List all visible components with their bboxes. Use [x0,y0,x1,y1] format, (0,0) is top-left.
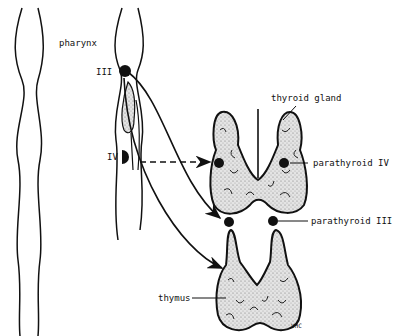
label-parathyroid-iii: parathyroid III [311,216,392,226]
label-thyroid-gland: thyroid gland [271,93,341,103]
arrow-to-thymus [124,78,222,268]
pouch-iv-dot [122,150,129,164]
artist-signature: VHC [291,322,302,329]
pouch-iii-dot [119,65,131,77]
parathyroid-iii-right [268,216,278,226]
pharynx-left-outline [15,8,43,336]
label-pharynx: pharynx [59,38,98,48]
embryology-diagram: pharynx III IV thyroid gland parathyroid… [0,0,397,336]
parathyroid-iv-right [279,158,289,168]
parathyroid-iii-left [224,217,234,227]
label-parathyroid-iv: parathyroid IV [313,158,389,168]
label-pouch-iv: IV [107,152,118,162]
pouch-tissue [122,82,135,133]
thymus [216,230,301,330]
label-thymus: thymus [158,293,191,303]
label-pouch-iii: III [96,67,112,77]
parathyroid-iv-left [214,158,224,168]
